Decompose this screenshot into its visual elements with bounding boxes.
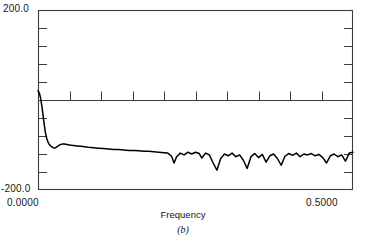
figure-caption: (b): [0, 224, 366, 235]
data-series-0: [38, 91, 353, 171]
figure-container: 200.0 -200.0 0.0000 0.5000 Frequency (b): [0, 0, 366, 239]
plot-area: [0, 0, 366, 239]
x-axis-title: Frequency: [0, 209, 366, 220]
